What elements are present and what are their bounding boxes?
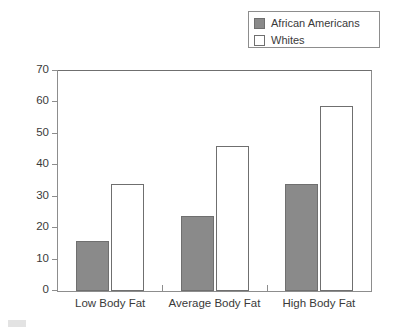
empty-white-square-icon <box>254 35 265 46</box>
caption-mark <box>8 320 26 327</box>
y-axis-tick: 40 <box>52 164 58 165</box>
y-axis-tick: 70 <box>52 70 58 71</box>
x-axis-category-label: Low Body Fat <box>58 296 162 311</box>
y-axis-tick: 20 <box>52 227 58 228</box>
legend-entry-whites: Whites <box>254 32 379 48</box>
chart-plot-area: 010203040506070 <box>57 70 372 292</box>
legend-entry-label: African Americans <box>271 17 360 29</box>
y-axis-tick-label: 40 <box>36 156 49 171</box>
bar <box>285 184 318 291</box>
bar <box>320 106 353 291</box>
y-axis-tick-label: 10 <box>36 251 49 266</box>
y-axis-tick: 60 <box>52 101 58 102</box>
chart-plot-inner: 010203040506070 <box>58 71 371 291</box>
x-axis-tick <box>162 285 163 291</box>
bar <box>216 146 249 291</box>
x-axis-category-label: High Body Fat <box>267 296 371 311</box>
x-axis-category-label: Average Body Fat <box>162 296 266 311</box>
y-axis-tick-label: 0 <box>43 282 49 297</box>
y-axis-tick-label: 60 <box>36 93 49 108</box>
y-axis-tick: 10 <box>52 259 58 260</box>
legend-entry-label: Whites <box>271 34 305 46</box>
y-axis-tick-label: 50 <box>36 125 49 140</box>
y-axis-tick-label: 70 <box>36 62 49 77</box>
y-axis-tick-label: 20 <box>36 219 49 234</box>
legend-entry-african-americans: African Americans <box>254 15 379 31</box>
bar <box>76 241 109 291</box>
bar <box>181 216 214 291</box>
y-axis-tick: 50 <box>52 133 58 134</box>
x-axis-tick <box>267 285 268 291</box>
y-axis-tick: 30 <box>52 196 58 197</box>
filled-gray-square-icon <box>254 18 265 29</box>
chart-legend: African Americans Whites <box>248 11 380 48</box>
bar <box>111 184 144 291</box>
y-axis-tick-label: 30 <box>36 188 49 203</box>
y-axis-tick: 0 <box>52 290 58 291</box>
